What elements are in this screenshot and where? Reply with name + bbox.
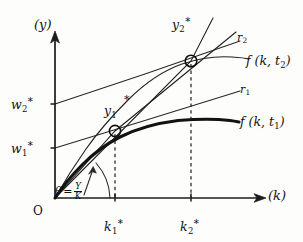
line-r2 — [55, 41, 240, 104]
w2-star: * — [27, 95, 33, 107]
angle-annotation-group — [84, 163, 110, 198]
f2-close: ) — [286, 53, 291, 68]
w1-star-label: w1* — [11, 140, 33, 158]
y1-base: y — [104, 103, 111, 118]
r2-label: r2 — [237, 32, 247, 45]
y2-base: y — [172, 17, 179, 32]
y2-subscript: 2 — [179, 24, 185, 34]
x-axis-label: (k) — [268, 189, 286, 202]
theta-fraction: YK — [74, 182, 82, 200]
y-axis-label: (y) — [34, 18, 52, 31]
curve-f-k-t2 — [55, 57, 249, 198]
k2-base: k — [180, 219, 188, 234]
y1-star-glyph: * — [124, 94, 130, 105]
f2-base: f (k, t — [246, 53, 280, 68]
curve-f-k-t1 — [55, 119, 239, 198]
f1-base: f (k, t — [240, 114, 274, 129]
r1-label: r1 — [240, 84, 250, 97]
k1-star-tick-label: k1* — [104, 218, 123, 236]
angle-arrow-shaft — [84, 172, 92, 195]
w1-star: * — [27, 139, 33, 151]
theta-angle-label: θ=YK — [55, 182, 82, 200]
angle-arrow-head — [89, 167, 97, 175]
k1-star: * — [117, 217, 123, 229]
k2-star-tick-label: k2* — [180, 218, 199, 236]
w1-base: w — [11, 141, 22, 156]
r2-subscript: 2 — [242, 36, 247, 45]
f1-close: ) — [280, 114, 285, 129]
y2-star-label: y2* — [172, 16, 190, 34]
y1-label: y1 — [104, 105, 117, 119]
y1-subscript: 1 — [111, 110, 117, 120]
origin-label: O — [33, 205, 43, 217]
k2-star: * — [193, 217, 199, 229]
f-k-t1-label: f (k, t1) — [240, 116, 285, 130]
ray-through-y1-star — [55, 32, 236, 198]
angle-arc — [96, 163, 110, 198]
theta-symbol: θ — [55, 185, 62, 198]
r1-subscript: 1 — [245, 88, 250, 97]
w2-base: w — [11, 97, 22, 112]
y2-star: * — [185, 15, 191, 27]
figure-canvas: (y) (k) O w2* w1* k1* k2* y2* y1 * r2 r1… — [0, 0, 303, 242]
theta-denominator: K — [74, 192, 82, 201]
k1-base: k — [104, 219, 112, 234]
theta-equals: = — [62, 185, 74, 198]
f-k-t2-label: f (k, t2) — [246, 55, 291, 69]
origin-rays-group — [55, 18, 236, 198]
w2-star-label: w2* — [11, 96, 33, 114]
